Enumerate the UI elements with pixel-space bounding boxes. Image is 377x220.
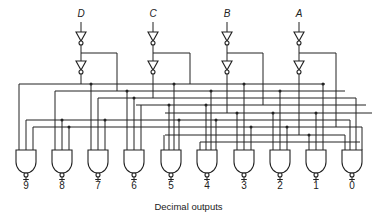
nand-gates	[16, 150, 362, 181]
output-label-1: 1	[313, 180, 319, 191]
bus-lines	[19, 84, 372, 142]
output-label-8: 8	[59, 180, 65, 191]
decoder-circuit	[0, 0, 377, 220]
output-label-5: 5	[168, 180, 174, 191]
output-label-6: 6	[131, 180, 137, 191]
output-label-3: 3	[241, 180, 247, 191]
caption: Decimal outputs	[0, 201, 377, 212]
output-label-7: 7	[95, 180, 101, 191]
output-label-9: 9	[23, 180, 29, 191]
input-label-b: B	[224, 8, 231, 19]
gate-inputs	[19, 83, 362, 151]
input-label-c: C	[149, 8, 156, 19]
input-label-a: A	[296, 8, 303, 19]
input-label-d: D	[77, 8, 84, 19]
output-label-0: 0	[349, 180, 355, 191]
output-label-2: 2	[277, 180, 283, 191]
output-label-4: 4	[204, 180, 210, 191]
